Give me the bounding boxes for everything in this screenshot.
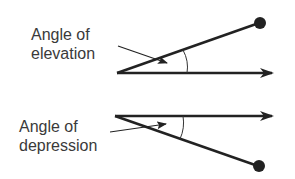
depression-label: Angle of depression — [19, 117, 97, 155]
depression-object-dot — [253, 160, 265, 172]
depression-sight-line — [115, 116, 258, 166]
depression-figure — [110, 116, 272, 172]
depression-angle-arc — [180, 116, 184, 139]
elevation-pointer-arrow — [118, 46, 167, 63]
depression-label-line2: depression — [19, 136, 97, 155]
elevation-label-line1: Angle of — [31, 25, 95, 44]
elevation-figure — [117, 17, 272, 73]
angle-diagram: Angle of elevation Angle of depression — [0, 0, 295, 179]
depression-label-line1: Angle of — [19, 117, 97, 136]
elevation-angle-arc — [183, 50, 188, 73]
elevation-object-dot — [254, 17, 266, 29]
elevation-sight-line — [117, 23, 259, 73]
elevation-label-line2: elevation — [31, 44, 95, 63]
elevation-label: Angle of elevation — [31, 25, 95, 63]
